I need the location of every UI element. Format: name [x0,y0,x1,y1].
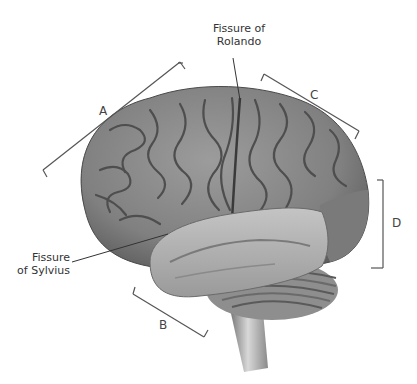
bracket-label-b: B [159,318,167,332]
bracket-label-a: A [99,104,107,118]
label-fissure-of-sylvius: Fissure of Sylvius [14,251,70,277]
brain-illustration [0,0,417,384]
brain-diagram: Fissure of Rolando Fissure of Sylvius A … [0,0,417,384]
label-rolando-line1: Fissure of [204,22,274,35]
bracket-label-c: C [310,88,318,102]
label-sylvius-line1: Fissure [14,251,70,264]
label-sylvius-line2: of Sylvius [14,264,70,277]
bracket-label-d: D [392,216,401,230]
label-fissure-of-rolando: Fissure of Rolando [204,22,274,48]
label-rolando-line2: Rolando [204,35,274,48]
bracket-d [371,180,383,268]
